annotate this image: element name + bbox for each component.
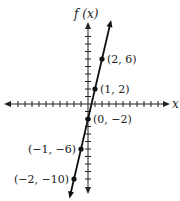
data-point-marker	[78, 146, 83, 151]
x-axis-right-arrow-icon	[163, 101, 170, 107]
data-point-marker	[71, 176, 76, 181]
y-axis-down-arrow-icon	[85, 187, 91, 194]
y-axis-up-arrow-icon	[85, 22, 91, 29]
line-bottom-arrow-icon	[68, 191, 74, 198]
data-point-marker	[99, 56, 104, 61]
data-point-label: (2, 6)	[107, 53, 137, 66]
data-point-marker	[92, 86, 97, 91]
line-top-arrow-icon	[107, 20, 113, 27]
data-point-label: (−1, −6)	[28, 143, 76, 156]
coordinate-plane: x f (x) (2, 6)(1, 2)(0, −2)(−1, −6)(−2, …	[0, 0, 180, 201]
x-axis-label: x	[172, 97, 179, 111]
data-point-label: (−2, −10)	[14, 173, 69, 186]
data-points: (2, 6)(1, 2)(0, −2)(−1, −6)(−2, −10)	[14, 53, 137, 186]
data-point-marker	[85, 116, 90, 121]
x-axis-left-arrow-icon	[4, 101, 11, 107]
data-point-label: (1, 2)	[100, 83, 130, 96]
data-point-label: (0, −2)	[93, 113, 132, 126]
y-axis-label: f (x)	[73, 7, 99, 21]
